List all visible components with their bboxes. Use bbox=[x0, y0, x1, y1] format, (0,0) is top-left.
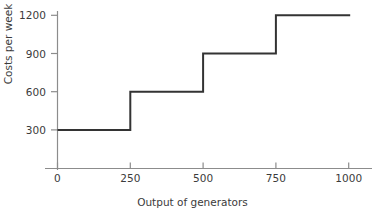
x-tick-label-250: 250 bbox=[120, 172, 140, 184]
step-line-series bbox=[58, 15, 351, 130]
x-tick-label-500: 500 bbox=[193, 172, 213, 184]
step-chart: 1200 900 600 300 0 250 500 750 1000 Outp… bbox=[0, 0, 385, 216]
x-axis-title: Output of generators bbox=[0, 196, 385, 208]
y-axis-title: Costs per week £ bbox=[2, 0, 14, 99]
x-tick-label-1000: 1000 bbox=[335, 172, 362, 184]
x-tick-label-750: 750 bbox=[266, 172, 286, 184]
y-tick-label-300: 300 bbox=[8, 124, 46, 136]
x-tick-label-0: 0 bbox=[54, 172, 61, 184]
